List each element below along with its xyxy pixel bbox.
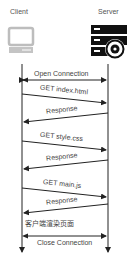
note-client-render: 客户端渲染页面 bbox=[25, 218, 74, 228]
msg-close-connection: Close Connection bbox=[37, 239, 92, 246]
msg-open-connection: Open Connection bbox=[34, 70, 88, 77]
computer-icon bbox=[9, 28, 33, 53]
server-gear-icon bbox=[91, 25, 127, 59]
